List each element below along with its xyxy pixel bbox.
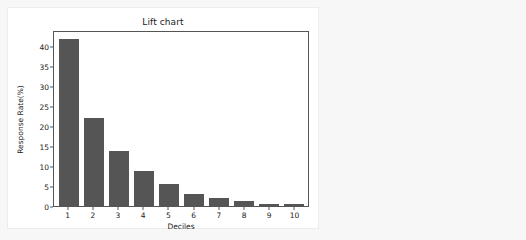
plot-area <box>53 31 309 207</box>
x-tick-label: 8 <box>231 211 256 220</box>
y-tick-label: 15 <box>39 143 49 152</box>
bar-9 <box>259 204 279 206</box>
x-axis: 12345678910 <box>53 207 309 223</box>
x-tick-mark <box>143 207 144 210</box>
x-axis-title: Deciles <box>53 222 309 231</box>
x-tick-mark <box>269 207 270 210</box>
bar-slot <box>56 32 81 206</box>
bar-7 <box>209 198 229 206</box>
x-tick-label: 3 <box>105 211 130 220</box>
bar-2 <box>84 118 104 206</box>
x-tick: 9 <box>257 207 282 223</box>
x-tick: 8 <box>231 207 256 223</box>
x-tick: 7 <box>206 207 231 223</box>
bar-slot <box>231 32 256 206</box>
y-tick-label: 20 <box>39 123 49 132</box>
x-tick: 10 <box>282 207 307 223</box>
bar-1 <box>59 39 79 206</box>
x-tick: 4 <box>131 207 156 223</box>
x-tick-label: 9 <box>257 211 282 220</box>
x-tick-label: 10 <box>282 211 307 220</box>
x-tick-mark <box>92 207 93 210</box>
x-tick-mark <box>244 207 245 210</box>
x-tick-mark <box>118 207 119 210</box>
x-tick-mark <box>294 207 295 210</box>
x-tick-label: 6 <box>181 211 206 220</box>
x-tick: 5 <box>156 207 181 223</box>
x-tick-mark <box>218 207 219 210</box>
x-tick-label: 1 <box>55 211 80 220</box>
x-tick-mark <box>193 207 194 210</box>
y-tick-label: 5 <box>44 182 49 191</box>
x-tick: 6 <box>181 207 206 223</box>
x-tick: 3 <box>105 207 130 223</box>
x-tick-mark <box>67 207 68 210</box>
x-tick-label: 2 <box>80 211 105 220</box>
bar-slot <box>281 32 306 206</box>
x-tick-label: 4 <box>131 211 156 220</box>
chart-figure-card: Lift chart Response Rate(%) 051015202530… <box>8 8 318 228</box>
screenshot-root: Lift chart Response Rate(%) 051015202530… <box>0 0 526 240</box>
bar-6 <box>184 194 204 206</box>
y-tick-label: 0 <box>44 203 49 212</box>
bar-slot <box>106 32 131 206</box>
bar-slot <box>256 32 281 206</box>
bar-series <box>54 32 308 206</box>
x-tick-label: 7 <box>206 211 231 220</box>
bar-4 <box>134 171 154 206</box>
bar-slot <box>131 32 156 206</box>
x-tick: 2 <box>80 207 105 223</box>
bar-3 <box>109 151 129 206</box>
x-tick: 1 <box>55 207 80 223</box>
bar-5 <box>159 184 179 206</box>
chart-title: Lift chart <box>8 17 318 27</box>
y-axis: 0510152025303540 <box>8 31 53 207</box>
y-tick-label: 30 <box>39 83 49 92</box>
bar-slot <box>206 32 231 206</box>
y-tick-label: 25 <box>39 103 49 112</box>
x-tick-label: 5 <box>156 211 181 220</box>
bar-slot <box>81 32 106 206</box>
bar-10 <box>284 204 304 206</box>
y-tick-label: 40 <box>39 43 49 52</box>
y-tick-label: 35 <box>39 63 49 72</box>
x-tick-mark <box>168 207 169 210</box>
bar-slot <box>181 32 206 206</box>
bar-slot <box>156 32 181 206</box>
y-tick-label: 10 <box>39 163 49 172</box>
bar-8 <box>234 201 254 206</box>
